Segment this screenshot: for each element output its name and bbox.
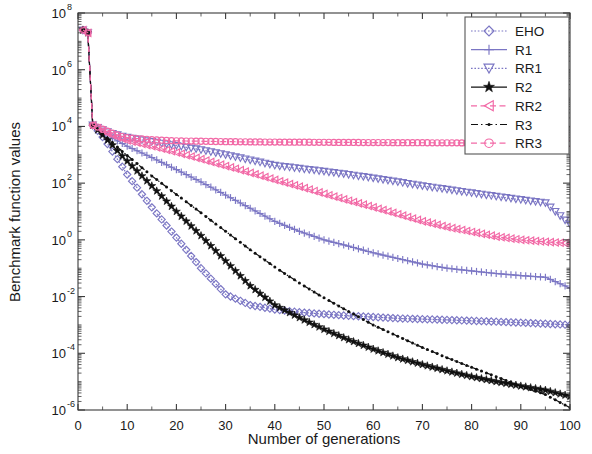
marker-dot xyxy=(441,354,444,357)
y-tick-label-base: 10 xyxy=(52,290,66,305)
x-tick-label-90: 90 xyxy=(514,418,528,433)
marker-dot xyxy=(145,170,148,173)
marker-dot xyxy=(116,145,119,148)
x-tick-label-10: 10 xyxy=(120,418,134,433)
y-tick-label-base: 10 xyxy=(52,6,66,21)
marker-dot xyxy=(259,255,262,258)
y-tick-label-base: 10 xyxy=(52,176,66,191)
y-tick-label-base: 10 xyxy=(52,233,66,248)
marker-dot xyxy=(505,379,508,382)
marker-dot xyxy=(180,197,183,200)
marker-dot xyxy=(347,310,350,313)
x-tick-label-0: 0 xyxy=(74,418,81,433)
marker-dot xyxy=(175,193,178,196)
marker-dot xyxy=(185,200,188,203)
y-tick-label-exponent: 2 xyxy=(67,172,72,182)
marker-dot xyxy=(396,335,399,338)
marker-dot xyxy=(357,315,360,318)
marker-dot xyxy=(101,133,104,136)
y-tick-label-base: 10 xyxy=(52,119,66,134)
marker-dot xyxy=(495,375,498,378)
marker-dot xyxy=(126,154,129,157)
marker-dot xyxy=(273,266,276,269)
y-tick-label-exponent: -6 xyxy=(67,399,75,409)
marker-dot xyxy=(406,339,409,342)
x-tick-label-20: 20 xyxy=(169,418,183,433)
marker-dot xyxy=(426,348,429,351)
marker-dot xyxy=(559,401,562,404)
x-axis-title: Number of generations xyxy=(248,430,401,447)
marker-dot xyxy=(534,390,537,393)
marker-dot xyxy=(500,377,503,380)
legend-label-RR1: RR1 xyxy=(515,61,542,76)
marker-dot xyxy=(352,313,355,316)
marker-dot xyxy=(318,293,321,296)
marker-dot xyxy=(268,262,271,265)
marker-dot xyxy=(160,182,163,185)
legend-label-RR2: RR2 xyxy=(515,99,542,114)
marker-dot xyxy=(465,364,468,367)
marker-dot xyxy=(121,150,124,153)
marker-dot xyxy=(150,174,153,177)
marker-dot xyxy=(303,285,306,288)
marker-dot xyxy=(529,388,532,391)
marker-dot xyxy=(170,189,173,192)
marker-dot xyxy=(249,248,252,251)
x-tick-label-80: 80 xyxy=(464,418,478,433)
marker-dot xyxy=(131,158,134,161)
marker-dot xyxy=(313,290,316,293)
marker-dot xyxy=(401,337,404,340)
marker-dot xyxy=(564,404,567,407)
marker-dot xyxy=(480,370,483,373)
marker-dot xyxy=(446,356,449,359)
marker-dot xyxy=(519,385,522,388)
marker-dot xyxy=(111,141,114,144)
marker-dot xyxy=(288,275,291,278)
y-axis-title: Benchmark function values xyxy=(6,122,23,302)
marker-dot xyxy=(509,381,512,384)
marker-dot xyxy=(332,302,335,305)
marker-dot xyxy=(195,208,198,211)
y-tick-label-exponent: 0 xyxy=(67,229,72,239)
y-tick-label-base: 10 xyxy=(52,403,66,418)
marker-dot xyxy=(337,304,340,307)
marker-dot xyxy=(165,186,168,189)
legend-label-EHO: EHO xyxy=(515,24,544,39)
legend[interactable]: EHOR1RR1R2RR2R3RR3 xyxy=(465,17,569,154)
marker-dot xyxy=(514,383,517,386)
y-tick-label-exponent: 8 xyxy=(67,2,72,12)
marker-dot xyxy=(544,393,547,396)
marker-dot xyxy=(239,241,242,244)
legend-label-R2: R2 xyxy=(515,80,532,95)
marker-dot xyxy=(377,326,380,329)
marker-dot xyxy=(136,162,139,165)
marker-dot xyxy=(524,386,527,389)
marker-dot xyxy=(386,330,389,333)
marker-dot xyxy=(470,366,473,369)
marker-dot xyxy=(323,296,326,299)
marker-dot xyxy=(327,299,330,302)
marker-dot xyxy=(372,323,375,326)
marker-dot xyxy=(234,237,237,240)
legend-label-R1: R1 xyxy=(515,43,532,58)
marker-dot xyxy=(421,346,424,349)
marker-dot xyxy=(224,230,227,233)
marker-dot xyxy=(490,373,493,376)
y-tick-label-exponent: -4 xyxy=(67,342,75,352)
legend-label-RR3: RR3 xyxy=(515,136,542,151)
marker-dot xyxy=(362,318,365,321)
y-tick-label-base: 10 xyxy=(52,346,66,361)
marker-dot xyxy=(190,204,193,207)
chart-svg: 0102030405060708090100 10810610410210010… xyxy=(0,0,592,454)
marker-dot xyxy=(342,307,345,310)
y-tick-label-exponent: 4 xyxy=(67,115,72,125)
x-tick-label-30: 30 xyxy=(218,418,232,433)
marker-dot xyxy=(140,166,143,169)
marker-dot xyxy=(382,328,385,331)
marker-dot xyxy=(554,398,557,401)
marker-dot xyxy=(367,321,370,324)
benchmark-convergence-chart: 0102030405060708090100 10810610410210010… xyxy=(0,0,592,454)
marker-dot xyxy=(209,219,212,222)
y-tick-label-base: 10 xyxy=(52,63,66,78)
marker-dot xyxy=(485,371,488,374)
